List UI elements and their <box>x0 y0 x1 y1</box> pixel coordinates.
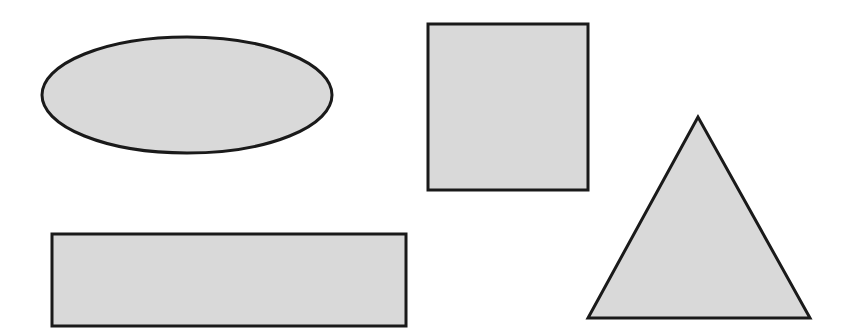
shapes-canvas <box>0 0 845 331</box>
rectangle-shape <box>52 234 406 326</box>
triangle-shape <box>588 117 810 318</box>
square-shape <box>428 24 588 190</box>
ellipse-shape <box>42 37 332 153</box>
